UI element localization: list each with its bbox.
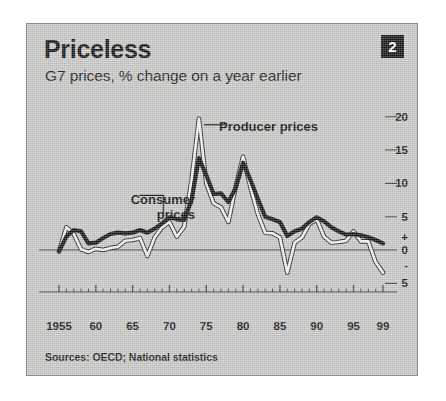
x-axis-tick-label: 75 — [200, 320, 213, 332]
series-label-producer: Producer prices — [219, 119, 318, 134]
y-axis-tick-label: 0 — [402, 244, 408, 256]
page-title: Priceless — [44, 35, 151, 64]
x-axis-tick-label: 85 — [274, 320, 287, 332]
axis-group — [39, 250, 397, 292]
x-axis-tick-label: 60 — [89, 320, 102, 332]
x-axis-tick-label: 1955 — [46, 320, 72, 332]
y-axis-sign-plus: + — [401, 231, 408, 243]
y-axis-labels: 201510505+- — [384, 92, 414, 337]
x-axis-tick-label: 99 — [377, 320, 390, 332]
x-axis-tick-label: 65 — [126, 320, 139, 332]
y-axis-tick-label: 20 — [395, 111, 408, 123]
y-axis-tick-label: 10 — [395, 177, 408, 189]
chart-card: Priceless G7 prices, % change on a year … — [26, 23, 418, 376]
x-axis-labels: 1955606570758085909599 — [27, 320, 418, 342]
series-label-consumer: Consumer prices — [99, 192, 195, 222]
y-axis-sign-minus: - — [404, 259, 408, 271]
x-axis-tick-label: 80 — [237, 320, 250, 332]
x-axis-tick-label: 95 — [347, 320, 360, 332]
y-axis-tick-label: 5 — [402, 277, 408, 289]
chart-subtitle: G7 prices, % change on a year earlier — [45, 67, 302, 85]
x-axis-tick-label: 70 — [163, 320, 176, 332]
x-axis-tick-label: 90 — [310, 320, 323, 332]
x-axis-ticks — [59, 285, 383, 292]
chart-number-badge: 2 — [381, 35, 404, 58]
y-axis-tick-label: 5 — [402, 211, 408, 223]
source-note: Sources: OECD; National statistics — [45, 351, 218, 363]
y-axis-tick-label: 15 — [395, 144, 408, 156]
